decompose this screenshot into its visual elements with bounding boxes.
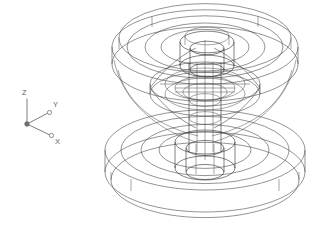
ucs-axis-y-line — [27, 113, 48, 124]
wireframe-drawing-canvas: Z Y X — [0, 0, 329, 236]
ucs-axis-y-node — [47, 110, 51, 114]
ucs-label-y: Y — [53, 100, 58, 109]
ucs-label-x: X — [55, 137, 60, 146]
ucs-axis-x-node — [49, 133, 53, 137]
cad-viewport[interactable]: Z Y X — [0, 0, 329, 236]
ucs-label-z: Z — [22, 88, 27, 97]
ucs-axis-x-line — [27, 124, 50, 135]
ucs-axis-triad[interactable]: Z Y X — [22, 88, 60, 146]
